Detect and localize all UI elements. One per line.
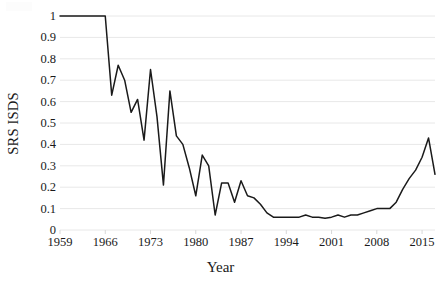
srs-isds-line-chart: SRS ISDS 10.90.80.70.60.50.40.30.20.10 1… [0, 0, 441, 289]
x-axis-title: Year [0, 259, 441, 276]
data-line-srs-isds [60, 16, 435, 218]
gridlines [60, 16, 435, 230]
x-axis-tick-labels: 195919661973198019871994200120082015 [0, 236, 441, 254]
x-tick-label: 2015 [392, 236, 441, 249]
x-axis-tick-marks [60, 230, 422, 234]
